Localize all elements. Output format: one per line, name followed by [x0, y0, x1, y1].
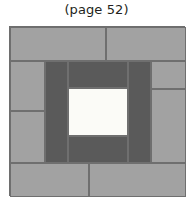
- patch-center-square: [68, 88, 128, 136]
- patch-outer-top-left: [10, 27, 106, 61]
- patch-outer-right-lower: [151, 89, 186, 163]
- patch-outer-left-lower: [10, 111, 45, 163]
- patch-inner-bottom: [68, 136, 128, 163]
- figure-caption: (page 52): [0, 2, 193, 17]
- quilt-block: [9, 26, 185, 196]
- patch-inner-right: [128, 61, 151, 163]
- patch-outer-bottom-left: [10, 163, 89, 197]
- figure-container: (page 52): [0, 0, 193, 203]
- patch-inner-top: [68, 61, 128, 88]
- patch-outer-right-upper: [151, 61, 186, 89]
- patch-outer-bottom-right: [89, 163, 186, 197]
- patch-outer-top-right: [106, 27, 186, 61]
- patch-inner-left: [45, 61, 68, 163]
- patch-outer-left-upper: [10, 61, 45, 111]
